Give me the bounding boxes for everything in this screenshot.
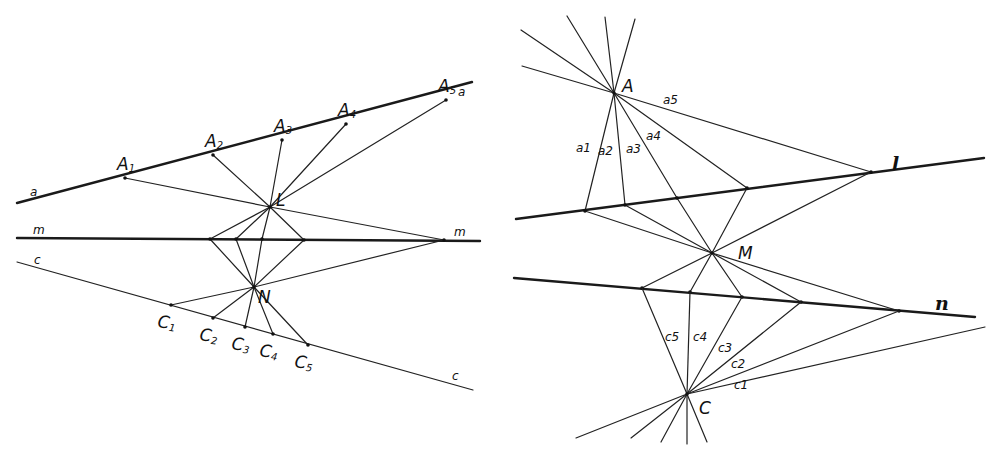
point-m-far bbox=[442, 238, 446, 242]
ray-below-C-3 bbox=[661, 394, 687, 442]
label-a4: a4 bbox=[646, 129, 661, 143]
line-n bbox=[514, 278, 975, 317]
point-L bbox=[268, 205, 272, 209]
segment-M-n4 bbox=[712, 253, 801, 302]
label-c1: c1 bbox=[734, 378, 748, 392]
point-l2 bbox=[623, 203, 627, 207]
label-a1: a1 bbox=[576, 141, 591, 155]
label-c4: c4 bbox=[693, 330, 707, 344]
label-c5: c5 bbox=[665, 330, 679, 344]
point-l4 bbox=[745, 186, 749, 190]
label-N: N bbox=[258, 287, 271, 307]
point-C4 bbox=[271, 332, 275, 336]
ray-above-A-5 bbox=[521, 30, 614, 93]
label-C4: C4 bbox=[258, 340, 279, 362]
label-M: M bbox=[738, 243, 753, 263]
label-a5: a5 bbox=[663, 93, 678, 107]
label-a2: a2 bbox=[598, 144, 613, 158]
label-C1: C1 bbox=[156, 311, 177, 333]
label-A3: A3 bbox=[273, 116, 292, 136]
segment-L-m1 bbox=[210, 207, 270, 239]
point-A bbox=[612, 91, 616, 95]
segment-N-m4 bbox=[254, 240, 304, 287]
segment-M-l3 bbox=[677, 198, 712, 253]
point-m1 bbox=[208, 237, 212, 241]
right-figure: AMClna1a2a3a4a5c5c4c3c2c1 bbox=[514, 16, 985, 444]
label-l: l bbox=[892, 152, 899, 174]
segment-N-m1 bbox=[210, 239, 254, 287]
point-C3 bbox=[243, 325, 247, 329]
label-C: C bbox=[699, 398, 711, 418]
label-A2: A2 bbox=[204, 131, 223, 151]
point-A5 bbox=[444, 98, 448, 102]
segment-c4 bbox=[687, 292, 690, 394]
point-l1 bbox=[583, 209, 587, 213]
label-C3: C3 bbox=[230, 333, 251, 355]
segment-a4 bbox=[614, 93, 747, 188]
label-c3: c3 bbox=[718, 341, 732, 355]
point-A1 bbox=[123, 176, 127, 180]
label-C5: C5 bbox=[293, 351, 314, 373]
point-C bbox=[685, 392, 689, 396]
point-N bbox=[252, 285, 256, 289]
label-A5: A5 bbox=[437, 76, 456, 96]
segment-L-m3 bbox=[262, 207, 270, 239]
segment-L-A2 bbox=[213, 155, 270, 207]
label-a3: a3 bbox=[626, 142, 641, 156]
point-A3 bbox=[280, 138, 284, 142]
label-n: n bbox=[935, 292, 949, 314]
segment-N-m2 bbox=[236, 239, 254, 287]
segment-L-m-far bbox=[270, 207, 444, 240]
label-L: L bbox=[276, 190, 285, 210]
label-m-left: m bbox=[33, 223, 45, 237]
label-c-left: c bbox=[34, 253, 41, 267]
point-C5 bbox=[306, 343, 310, 347]
point-m4 bbox=[302, 238, 306, 242]
point-C2 bbox=[211, 316, 215, 320]
segment-a2 bbox=[614, 93, 625, 205]
point-A2 bbox=[211, 153, 215, 157]
label-A4: A4 bbox=[337, 100, 356, 120]
segment-a3 bbox=[614, 93, 677, 198]
point-M bbox=[710, 251, 714, 255]
label-C2: C2 bbox=[198, 324, 219, 346]
label-m-right: m bbox=[454, 225, 466, 239]
point-A4 bbox=[344, 122, 348, 126]
label-c2: c2 bbox=[731, 357, 745, 371]
point-l5 bbox=[869, 170, 873, 174]
point-m3 bbox=[260, 237, 264, 241]
segment-L-A1 bbox=[125, 178, 270, 207]
ray-below-C-1 bbox=[576, 394, 687, 438]
segment-N-m-far bbox=[254, 240, 444, 287]
label-a-right: a bbox=[458, 85, 465, 99]
label-c-right: c bbox=[452, 369, 459, 383]
label-A1: A1 bbox=[116, 154, 135, 174]
label-A: A bbox=[621, 76, 634, 96]
ray-below-C-2 bbox=[631, 394, 687, 438]
left-figure: A1A2A3A4A5C1C2C3C4C5LNaammcc bbox=[17, 76, 480, 390]
segment-L-A5 bbox=[270, 100, 446, 207]
line-a bbox=[17, 82, 472, 203]
point-m2 bbox=[234, 237, 238, 241]
line-m bbox=[17, 238, 480, 241]
diagram-canvas: A1A2A3A4A5C1C2C3C4C5LNaammcc AMClna1a2a3… bbox=[0, 0, 991, 452]
point-l3 bbox=[675, 196, 679, 200]
point-C1 bbox=[169, 303, 173, 307]
label-a-left: a bbox=[30, 185, 37, 199]
